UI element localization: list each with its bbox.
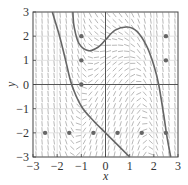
x-tick-label: 2 [151, 159, 157, 173]
marked-point [79, 58, 83, 62]
y-axis-label: y [4, 81, 18, 88]
slope-field-chart: −3−2−10123−3−2−10123 x y [0, 0, 188, 185]
marked-point [164, 34, 168, 38]
x-tick-label: −2 [51, 159, 64, 173]
marked-point [164, 58, 168, 62]
y-tick-label: 2 [23, 29, 29, 43]
x-tick-label: 3 [175, 159, 181, 173]
y-tick-label: −3 [16, 150, 29, 164]
marked-point [91, 131, 95, 135]
y-tick-label: 1 [23, 53, 29, 67]
y-tick-label: −1 [16, 102, 29, 116]
marked-point [67, 131, 71, 135]
marked-point [115, 131, 119, 135]
axes [33, 12, 178, 157]
x-axis-label: x [102, 169, 109, 183]
marked-point [79, 34, 83, 38]
y-tick-label: 0 [23, 78, 29, 92]
y-tick-label: 3 [23, 5, 29, 19]
y-tick-label: −2 [16, 126, 29, 140]
tick-labels: −3−2−10123−3−2−10123 [16, 5, 181, 173]
marked-point [164, 131, 168, 135]
x-tick-label: −1 [75, 159, 88, 173]
marked-point [43, 131, 47, 135]
marked-point [79, 82, 83, 86]
marked-point [140, 131, 144, 135]
x-tick-label: 1 [127, 159, 133, 173]
